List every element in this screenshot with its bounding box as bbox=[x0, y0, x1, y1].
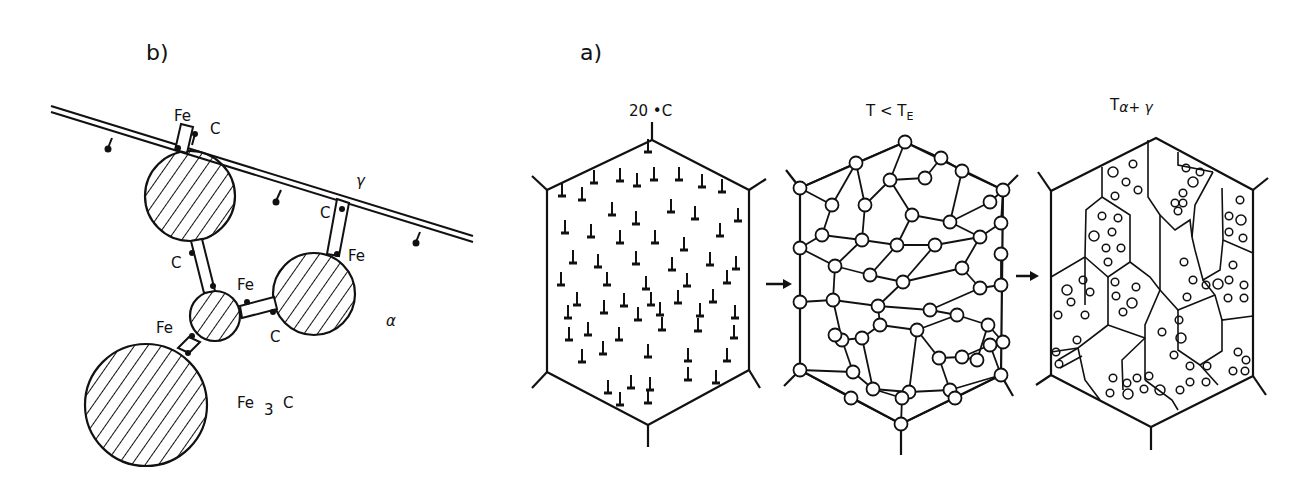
stage-2-title: T < TE bbox=[865, 102, 913, 123]
fe3c-particle-right bbox=[273, 253, 355, 335]
label-fe-bridge-right: Fe bbox=[348, 247, 365, 265]
grain-boundary bbox=[51, 106, 473, 242]
stage-1-title: 20 •C bbox=[629, 102, 672, 120]
svg-text:3: 3 bbox=[264, 401, 274, 419]
label-fe-small-left: Fe bbox=[156, 319, 173, 337]
stage-2-grain: T < TE bbox=[784, 102, 1018, 455]
arrow-stage-1-to-2 bbox=[766, 279, 792, 289]
panel-a-label: a) bbox=[580, 40, 602, 65]
subgrain-boundaries bbox=[1051, 140, 1253, 410]
fe3c-particle-top bbox=[145, 151, 235, 241]
fe3c-particle-large bbox=[85, 344, 207, 466]
label-alpha: α bbox=[386, 312, 396, 330]
panel-b: b) bbox=[51, 40, 473, 466]
label-c-top: C bbox=[210, 120, 220, 138]
panel-a: a) 20 •C T < TE bbox=[532, 40, 1268, 455]
label-c-bridge-left: C bbox=[171, 254, 181, 272]
dislocation-symbols bbox=[557, 139, 742, 405]
label-fe3c: Fe 3 C bbox=[237, 394, 293, 419]
label-c-bridge-right: C bbox=[320, 204, 330, 222]
fe3c-particle-small bbox=[190, 291, 240, 341]
stage-3-grain: Tα+ γ bbox=[1036, 96, 1268, 450]
diagram-canvas: b) bbox=[0, 0, 1314, 487]
label-gamma: γ bbox=[356, 172, 366, 190]
svg-text:Fe: Fe bbox=[237, 394, 254, 412]
label-fe-top: Fe bbox=[174, 107, 191, 125]
panel-b-label: b) bbox=[146, 40, 169, 65]
svg-text:C: C bbox=[283, 394, 293, 412]
figure: b) bbox=[0, 0, 1314, 487]
label-c-small-right: C bbox=[270, 328, 280, 346]
precipitate-network bbox=[794, 136, 1010, 431]
arrow-stage-2-to-3 bbox=[1016, 271, 1039, 281]
label-fe-small-right: Fe bbox=[237, 276, 254, 294]
stage-3-title: Tα+ γ bbox=[1109, 96, 1154, 115]
stage-1-grain: 20 •C bbox=[532, 102, 766, 447]
